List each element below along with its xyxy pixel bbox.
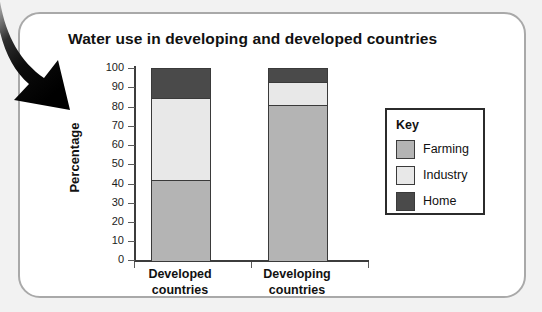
bar-developed-countries[interactable] [151, 68, 211, 262]
legend-swatch-farming [396, 140, 415, 159]
y-tick-100 [128, 68, 135, 69]
bar-segment-home-developing[interactable] [269, 69, 327, 82]
y-tick-10 [128, 241, 135, 242]
y-tick-label-30: 30 [96, 197, 124, 208]
x-axis-label-developing-line1: Developing [263, 267, 330, 281]
y-tick-70 [128, 126, 135, 127]
bar-segment-home-developed[interactable] [152, 69, 210, 98]
y-tick-label-40: 40 [96, 178, 124, 189]
y-tick-label-20: 20 [96, 216, 124, 227]
bar-segment-industry-developed[interactable] [152, 98, 210, 180]
y-tick-20 [128, 222, 135, 223]
bar-segment-industry-developing[interactable] [269, 82, 327, 105]
legend-swatch-industry [396, 166, 415, 185]
y-tick-0 [128, 260, 135, 261]
x-axis-label-developed: Developed countries [120, 266, 240, 298]
y-tick-label-60: 60 [96, 139, 124, 150]
y-tick-50 [128, 164, 135, 165]
y-tick-label-90: 90 [96, 81, 124, 92]
y-tick-label-100: 100 [96, 62, 124, 73]
y-tick-label-80: 80 [96, 101, 124, 112]
y-tick-label-50: 50 [96, 158, 124, 169]
x-axis-label-developing: Developing countries [237, 266, 357, 298]
y-tick-80 [128, 107, 135, 108]
y-tick-label-70: 70 [96, 120, 124, 131]
bar-developing-countries[interactable] [268, 68, 328, 262]
y-tick-30 [128, 203, 135, 204]
x-tick-right [368, 262, 369, 268]
y-tick-label-0: 0 [96, 254, 124, 265]
legend-label-industry: Industry [423, 168, 467, 182]
y-tick-40 [128, 184, 135, 185]
y-tick-label-10: 10 [96, 235, 124, 246]
bar-segment-farming-developed[interactable] [152, 180, 210, 261]
legend-label-farming: Farming [423, 142, 469, 156]
chart-legend: Key Farming Industry Home [385, 108, 485, 215]
x-axis-label-developed-line2: countries [152, 283, 208, 297]
legend-label-home: Home [423, 194, 456, 208]
legend-title: Key [396, 118, 419, 132]
bar-segment-farming-developing[interactable] [269, 105, 327, 261]
legend-swatch-home [396, 192, 415, 211]
x-axis-label-developed-line1: Developed [148, 267, 211, 281]
x-axis-label-developing-line2: countries [269, 283, 325, 297]
y-tick-60 [128, 145, 135, 146]
y-axis-title: Percentage [67, 78, 82, 238]
y-tick-90 [128, 87, 135, 88]
